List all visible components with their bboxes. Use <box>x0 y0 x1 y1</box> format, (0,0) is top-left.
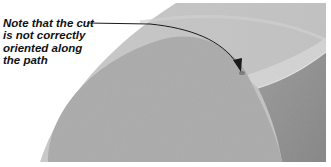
annotation-line-4: the path <box>3 54 94 66</box>
annotation-callout: Note that the cut is not correctly orien… <box>3 17 94 67</box>
cad-figure: Note that the cut is not correctly orien… <box>0 0 331 167</box>
annotation-line-3: oriented along <box>3 42 94 54</box>
annotation-line-2: is not correctly <box>3 29 94 41</box>
cut-notch <box>239 71 245 75</box>
annotation-line-1: Note that the cut <box>3 17 94 29</box>
